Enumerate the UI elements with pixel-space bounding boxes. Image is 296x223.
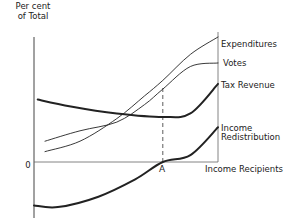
label-income-redistribution-line-2: Redistribution xyxy=(221,132,280,142)
y-axis-label-line-2: of Total xyxy=(18,11,49,21)
label-votes: Votes xyxy=(223,58,247,68)
series-line-expenditures xyxy=(45,37,218,152)
marker-a-label: A xyxy=(159,164,166,174)
y-axis-label-line-1: Per cent xyxy=(16,1,52,11)
series-line-votes xyxy=(45,63,218,141)
series-line-income-redistribution xyxy=(34,127,218,207)
series-line-tax-revenue xyxy=(38,84,218,117)
chart: Per cent of Total 0 A Income Recipients … xyxy=(0,0,296,223)
label-tax-revenue: Tax Revenue xyxy=(220,80,275,90)
origin-label: 0 xyxy=(25,160,30,170)
series-group xyxy=(34,37,218,208)
x-axis-label: Income Recipients xyxy=(205,164,283,174)
label-expenditures: Expenditures xyxy=(221,39,277,49)
axes xyxy=(34,32,218,218)
